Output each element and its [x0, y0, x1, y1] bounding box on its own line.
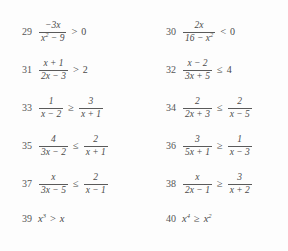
right-hand-side: 2	[83, 65, 88, 75]
fraction-denominator: x + 1	[79, 109, 103, 120]
relation-symbol: >	[46, 214, 60, 225]
fraction-numerator: 1	[235, 135, 244, 146]
relation-symbol: ≤	[69, 179, 83, 190]
fraction-numerator: 3	[193, 135, 202, 146]
fraction-right: 2 x − 1	[84, 173, 108, 196]
problem-33[interactable]: 33 1 x − 2 ≥ 3 x + 1	[0, 89, 144, 127]
denominator-base: 16 − x	[185, 33, 210, 43]
fraction-denominator: 2x − 1	[183, 185, 212, 196]
fraction-denominator: x − 5	[228, 109, 252, 120]
problem-expression: x + 1 2x − 3 > 2	[38, 59, 88, 82]
fraction-numerator: 3	[235, 173, 244, 184]
problem-number: 30	[166, 27, 176, 37]
problem-40[interactable]: 40 x4 ≥ x2	[144, 203, 288, 235]
problem-expression: x − 2 3x + 5 ≤ 4	[182, 59, 232, 82]
exercise-page: 29 −3x x2 − 9 > 0 31 x + 1	[0, 0, 288, 251]
problem-expression: 1 x − 2 ≥ 3 x + 1	[38, 97, 104, 120]
problem-number: 31	[22, 65, 32, 75]
fraction-numerator: 3	[87, 97, 96, 108]
problem-32[interactable]: 32 x − 2 3x + 5 ≤ 4	[144, 51, 288, 89]
right-term: x	[60, 214, 65, 225]
fraction-numerator: x − 2	[185, 59, 209, 70]
problem-number: 35	[22, 141, 32, 151]
fraction-numerator: 2	[91, 173, 100, 184]
fraction-numerator: x	[193, 173, 201, 184]
problem-number: 29	[22, 27, 32, 37]
fraction: x − 2 3x + 5	[183, 59, 212, 82]
problem-expression: 2 2x + 3 ≤ 2 x − 5	[182, 97, 253, 120]
relation-symbol: ≤	[69, 141, 83, 152]
right-hand-side: 0	[230, 27, 235, 37]
fraction-denominator: x − 2	[39, 109, 63, 120]
fraction-right: 2 x + 1	[84, 135, 108, 158]
fraction-denominator: x + 2	[228, 185, 252, 196]
relation-symbol: ≥	[64, 103, 78, 114]
term-base: x	[60, 213, 65, 224]
problem-37[interactable]: 37 x 3x − 5 ≤ 2 x − 1	[0, 165, 144, 203]
problem-number: 37	[22, 179, 32, 189]
problem-39[interactable]: 39 x3 > x	[0, 203, 144, 235]
fraction-numerator: 2	[235, 97, 244, 108]
problem-expression: x4 ≥ x2	[182, 214, 212, 225]
fraction-denominator: 3x − 5	[39, 185, 68, 196]
problem-38[interactable]: 38 x 2x − 1 ≥ 3 x + 2	[144, 165, 288, 203]
fraction-denominator: x + 1	[84, 147, 108, 158]
relation-symbol: ≥	[213, 179, 227, 190]
fraction-denominator: 3x − 2	[39, 147, 68, 158]
fraction: x + 1 2x − 3	[39, 59, 68, 82]
fraction-numerator: 4	[49, 135, 58, 146]
fraction-left: 1 x − 2	[39, 97, 63, 120]
problem-expression: 3 5x + 1 ≥ 1 x − 3	[182, 135, 253, 158]
relation-symbol: ≥	[213, 141, 227, 152]
right-term: x2	[204, 214, 212, 225]
problem-expression: x 2x − 1 ≥ 3 x + 2	[182, 173, 253, 196]
fraction-numerator: 2	[91, 135, 100, 146]
problem-expression: 4 3x − 2 ≤ 2 x + 1	[38, 135, 109, 158]
problem-expression: x3 > x	[38, 214, 65, 225]
problem-29[interactable]: 29 −3x x2 − 9 > 0	[0, 13, 144, 51]
fraction-right: 2 x − 5	[228, 97, 252, 120]
fraction-denominator: 2x + 3	[183, 109, 212, 120]
term-exponent: 2	[208, 211, 211, 218]
fraction-left: 4 3x − 2	[39, 135, 68, 158]
fraction-denominator: x − 3	[228, 147, 252, 158]
fraction: 2x 16 − x2	[183, 21, 215, 44]
problem-35[interactable]: 35 4 3x − 2 ≤ 2 x + 1	[0, 127, 144, 165]
problem-number: 32	[166, 65, 176, 75]
fraction-right: 1 x − 3	[228, 135, 252, 158]
fraction-left: x 3x − 5	[39, 173, 68, 196]
fraction-right: 3 x + 2	[228, 173, 252, 196]
denominator-tail: − 9	[48, 33, 64, 43]
fraction: −3x x2 − 9	[39, 21, 66, 44]
problem-31[interactable]: 31 x + 1 2x − 3 > 2	[0, 51, 144, 89]
problem-number: 36	[166, 141, 176, 151]
relation-symbol: >	[67, 27, 81, 38]
left-term: x4	[182, 214, 190, 225]
problem-30[interactable]: 30 2x 16 − x2 < 0	[144, 13, 288, 51]
relation-symbol: ≥	[190, 214, 204, 225]
relation-symbol: >	[69, 65, 83, 76]
right-hand-side: 0	[81, 27, 86, 37]
fraction-right: 3 x + 1	[79, 97, 103, 120]
problem-number: 39	[22, 214, 32, 224]
fraction-denominator: x − 1	[84, 185, 108, 196]
problem-number: 40	[166, 214, 176, 224]
problem-columns: 29 −3x x2 − 9 > 0 31 x + 1	[0, 0, 288, 235]
right-hand-side: 4	[227, 65, 232, 75]
problem-number: 38	[166, 179, 176, 189]
fraction-denominator: 16 − x2	[183, 33, 215, 44]
right-column: 30 2x 16 − x2 < 0 32 x − 2	[144, 13, 288, 235]
problem-expression: −3x x2 − 9 > 0	[38, 21, 86, 44]
fraction-denominator: 5x + 1	[183, 147, 212, 158]
relation-symbol: ≤	[213, 103, 227, 114]
relation-symbol: ≤	[213, 65, 227, 76]
fraction-numerator: 2x	[193, 21, 206, 32]
fraction-numerator: 2	[193, 97, 202, 108]
fraction-denominator: x2 − 9	[39, 33, 66, 44]
problem-34[interactable]: 34 2 2x + 3 ≤ 2 x − 5	[144, 89, 288, 127]
problem-expression: 2x 16 − x2 < 0	[182, 21, 235, 44]
problem-36[interactable]: 36 3 5x + 1 ≥ 1 x − 3	[144, 127, 288, 165]
problem-number: 34	[166, 103, 176, 113]
denominator-exponent: 2	[210, 30, 213, 37]
problem-number: 33	[22, 103, 32, 113]
